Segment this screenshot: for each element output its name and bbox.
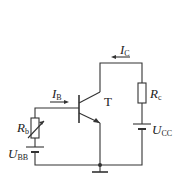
rc-label: Rc bbox=[149, 86, 162, 102]
junction-dot bbox=[98, 163, 102, 167]
collector-wire bbox=[100, 63, 142, 92]
base-current-arrow-icon bbox=[64, 100, 69, 104]
collector-resistor bbox=[138, 83, 146, 103]
transistor-label: T bbox=[104, 94, 112, 109]
collector-current-arrow-icon bbox=[111, 55, 116, 59]
ic-label: IC bbox=[119, 42, 130, 58]
ib-label: IB bbox=[51, 86, 62, 102]
ubb-label: UBB bbox=[8, 146, 28, 162]
rb-label: Rb bbox=[16, 120, 29, 136]
circuit-diagram: T IB IC Rc UCC Rb UBB bbox=[0, 0, 178, 184]
ucc-label: UCC bbox=[152, 122, 172, 138]
